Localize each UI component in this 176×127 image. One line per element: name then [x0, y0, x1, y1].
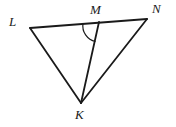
- geometry-canvas: [0, 0, 176, 127]
- geometry-figure: L M N K: [0, 0, 176, 127]
- vertex-label-M: M: [90, 3, 101, 16]
- segment-LN: [30, 19, 147, 28]
- vertex-label-L: L: [9, 15, 16, 28]
- vertex-label-K: K: [75, 108, 84, 121]
- segment-LK: [30, 28, 81, 103]
- angle-arc-LMK: [83, 23, 96, 41]
- vertex-label-N: N: [152, 2, 161, 15]
